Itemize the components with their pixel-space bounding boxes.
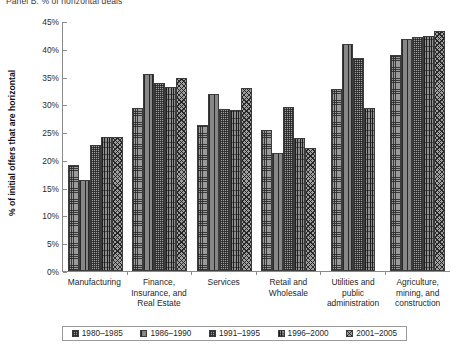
legend-swatch xyxy=(278,330,285,337)
legend-swatch xyxy=(209,330,216,337)
y-axis-title: % of initial offers that are horizontal xyxy=(7,48,17,238)
bar-group xyxy=(63,22,128,271)
bar xyxy=(79,180,90,271)
chart-legend: 1980–19851986–19901991–19951996–20002001… xyxy=(62,326,407,341)
x-axis-category-label: Manufacturing xyxy=(62,277,127,309)
y-axis-tick-label: 40% xyxy=(29,44,63,54)
bar xyxy=(143,74,154,271)
bar xyxy=(434,31,445,271)
x-axis-category-label: Utilities andpublicadministration xyxy=(321,277,386,309)
bar-chart: % of initial offers that are horizontal … xyxy=(0,0,462,349)
x-axis-category-label: Services xyxy=(191,277,256,309)
legend-label: 1980–1985 xyxy=(82,329,123,338)
y-axis-tick-label: 15% xyxy=(29,183,63,193)
bar xyxy=(68,165,79,271)
bar xyxy=(272,153,283,271)
y-axis-tick-label: 30% xyxy=(29,100,63,110)
bar-group xyxy=(321,22,386,271)
legend-item[interactable]: 1986–1990 xyxy=(140,329,191,338)
legend-item[interactable]: 1996–2000 xyxy=(278,329,329,338)
legend-item[interactable]: 1991–1995 xyxy=(209,329,260,338)
y-axis-tick-label: 25% xyxy=(29,128,63,138)
bar xyxy=(132,108,143,271)
bar-groups xyxy=(63,22,450,271)
bar-group xyxy=(257,22,322,271)
legend-label: 2001–2005 xyxy=(356,329,397,338)
bar xyxy=(364,108,375,271)
legend-label: 1986–1990 xyxy=(150,329,191,338)
bar xyxy=(230,110,241,271)
bar xyxy=(154,83,165,271)
x-axis-labels: ManufacturingFinance,Insurance, andReal … xyxy=(62,277,450,309)
legend-item[interactable]: 1980–1985 xyxy=(72,329,123,338)
bar xyxy=(331,89,342,271)
y-axis-tick-label: 45% xyxy=(29,17,63,27)
y-axis-tick-label: 10% xyxy=(29,211,63,221)
legend-swatch xyxy=(72,330,79,337)
y-axis-tick-label: 5% xyxy=(29,239,63,249)
bar xyxy=(101,137,112,271)
bar xyxy=(112,137,123,271)
legend-swatch xyxy=(346,330,353,337)
x-axis-category-label: Agriculture,mining, andconstruction xyxy=(385,277,450,309)
bar-group xyxy=(128,22,193,271)
bar-group xyxy=(192,22,257,271)
bar xyxy=(294,138,305,271)
bar xyxy=(423,36,434,271)
bar-group xyxy=(386,22,451,271)
y-axis-tick-mark xyxy=(63,272,67,273)
bar xyxy=(412,37,423,271)
bar xyxy=(165,87,176,271)
x-axis-category-label: Retail andWholesale xyxy=(256,277,321,309)
bar xyxy=(241,88,252,271)
legend-swatch xyxy=(140,330,147,337)
legend-label: 1991–1995 xyxy=(219,329,260,338)
bar xyxy=(90,145,101,271)
bar xyxy=(353,58,364,271)
bar xyxy=(342,44,353,271)
bar xyxy=(390,55,401,271)
y-axis-tick-label: 0% xyxy=(29,267,63,277)
legend-item[interactable]: 2001–2005 xyxy=(346,329,397,338)
bar xyxy=(219,109,230,271)
y-axis-tick-label: 20% xyxy=(29,155,63,165)
bar xyxy=(401,39,412,271)
bar xyxy=(208,94,219,271)
bar xyxy=(283,107,294,271)
bar xyxy=(197,125,208,271)
x-axis-category-label: Finance,Insurance, andReal Estate xyxy=(127,277,192,309)
plot-area: 45%40%35%30%25%20%15%10%5%0% xyxy=(62,22,450,272)
bar xyxy=(176,78,187,271)
bar xyxy=(261,130,272,271)
y-axis-tick-label: 35% xyxy=(29,72,63,82)
bar xyxy=(305,148,316,271)
legend-label: 1996–2000 xyxy=(288,329,329,338)
